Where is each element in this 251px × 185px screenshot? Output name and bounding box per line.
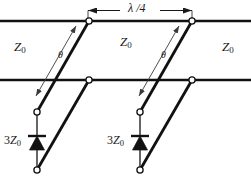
impedance-label-right: Z0 — [222, 40, 234, 55]
right-upper-diagonal-conductor — [140, 21, 192, 112]
theta-label-right: θ — [161, 50, 166, 60]
left-diode-symbol — [28, 136, 46, 150]
diode-impedance-label-right: 3Z0 — [107, 134, 124, 148]
stub-unit-left — [28, 18, 92, 173]
diode-impedance-label-left: 3Z0 — [4, 134, 21, 148]
impedance-subscript-middle: 0 — [127, 40, 132, 50]
diode-impedance-subscript-right: 0 — [120, 138, 124, 148]
left-upper-stub-node — [34, 109, 40, 115]
right-mid-node — [189, 77, 195, 83]
diode-impedance-symbol-left: Z — [10, 133, 17, 147]
right-theta-arrow — [139, 26, 179, 96]
impedance-label-left: Z0 — [14, 40, 26, 55]
left-lower-diagonal-conductor — [37, 80, 89, 170]
transmission-lines — [0, 21, 251, 80]
right-diode-anode-triangle — [133, 136, 148, 150]
left-top-node — [86, 18, 92, 24]
left-upper-diagonal-conductor — [37, 21, 89, 112]
right-upper-stub-node — [137, 109, 143, 115]
left-mid-node — [86, 77, 92, 83]
diode-impedance-symbol-right: Z — [113, 133, 120, 147]
right-lower-stub-node — [137, 167, 143, 173]
diagram-canvas — [0, 0, 251, 185]
right-lower-diagonal-conductor — [140, 80, 192, 170]
theta-label-left: θ — [58, 50, 63, 60]
right-top-node — [189, 18, 195, 24]
circuit-diagram: λ /4 Z0 Z0 Z0 θ θ 3Z0 3Z0 — [0, 0, 251, 185]
right-diode-symbol — [131, 136, 149, 150]
left-theta-arrow — [36, 26, 76, 96]
left-lower-stub-node — [34, 167, 40, 173]
impedance-label-middle: Z0 — [120, 35, 132, 50]
lambda-quarter-label: λ /4 — [128, 2, 146, 14]
diode-impedance-subscript-left: 0 — [17, 138, 21, 148]
impedance-subscript-right: 0 — [229, 45, 234, 55]
impedance-subscript-left: 0 — [21, 45, 26, 55]
stub-unit-right — [131, 18, 195, 173]
left-diode-anode-triangle — [30, 136, 45, 150]
